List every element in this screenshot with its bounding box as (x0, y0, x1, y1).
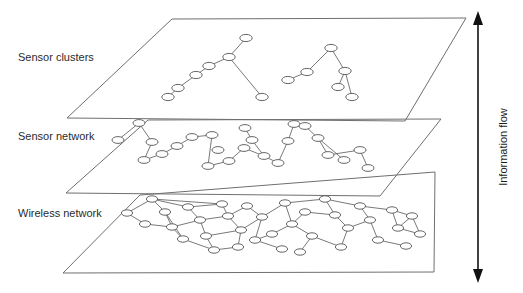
network-node (286, 221, 297, 227)
network-node (171, 143, 183, 150)
network-node (392, 225, 403, 231)
network-node (133, 120, 145, 127)
network-node (222, 213, 233, 219)
network-node (342, 225, 353, 231)
network-node (306, 233, 317, 239)
plane-wireless-network (63, 172, 435, 273)
network-node (249, 237, 260, 243)
graph-sensor-network (112, 120, 374, 172)
network-node (203, 62, 215, 69)
network-link (285, 199, 325, 203)
network-node (279, 200, 290, 206)
network-link (208, 135, 212, 166)
network-node (139, 221, 150, 227)
network-node (206, 132, 218, 139)
network-node (362, 165, 374, 172)
network-node (354, 203, 365, 209)
network-node (240, 34, 252, 41)
network-node (202, 163, 214, 170)
network-node (364, 217, 375, 223)
network-node (299, 123, 311, 130)
network-node (288, 121, 300, 128)
network-node (282, 138, 294, 145)
network-node (322, 152, 334, 159)
layer-label-sensor-network: Sensor network (18, 130, 95, 142)
network-node (258, 153, 270, 160)
plane-sensor-clusters (67, 18, 466, 121)
information-flow-arrow: Information flow (473, 11, 509, 283)
network-node (276, 246, 287, 252)
network-node (246, 137, 258, 144)
network-node (239, 125, 251, 132)
network-node (156, 151, 168, 158)
network-node (146, 139, 158, 146)
network-node (182, 204, 193, 210)
network-node (121, 210, 132, 216)
network-node (212, 147, 224, 154)
network-node (256, 214, 267, 220)
network-node (332, 83, 344, 90)
network-node (241, 203, 252, 209)
network-node (172, 84, 184, 91)
network-node (299, 209, 310, 215)
plane-group (63, 18, 466, 273)
network-node (235, 227, 246, 233)
layer-label-wireless-network: Wireless network (18, 207, 102, 219)
network-node (282, 76, 294, 83)
diagram-canvas: Sensor clusters Sensor network Wireless … (0, 0, 523, 293)
network-node (138, 157, 150, 164)
network-node (414, 231, 425, 237)
network-node (194, 217, 205, 223)
layer-label-sensor-clusters: Sensor clusters (18, 51, 94, 63)
network-node (223, 158, 235, 165)
network-node (346, 93, 358, 100)
network-node (190, 71, 202, 78)
flow-arrowhead-down (473, 269, 483, 283)
network-node (312, 135, 324, 142)
network-node (186, 134, 198, 141)
network-link (307, 48, 331, 72)
network-node (325, 44, 337, 51)
network-node (200, 233, 211, 239)
network-link (229, 57, 262, 97)
network-node (162, 93, 174, 100)
graph-sensor-clusters (162, 34, 358, 100)
network-node (256, 93, 268, 100)
network-node (266, 231, 277, 237)
layered-network-svg: Sensor clusters Sensor network Wireless … (0, 0, 523, 293)
network-node (329, 212, 340, 218)
network-node (177, 236, 188, 242)
plane-sensor-network (66, 119, 441, 196)
network-node (159, 209, 170, 215)
network-node (372, 237, 383, 243)
network-node (223, 53, 235, 60)
network-node (294, 249, 305, 255)
network-node (400, 243, 411, 249)
network-node (319, 196, 330, 202)
network-node (216, 201, 227, 207)
network-node (301, 68, 313, 75)
network-node (166, 224, 177, 230)
network-node (354, 147, 366, 154)
graph-wireless-network (121, 196, 425, 255)
network-node (238, 145, 250, 152)
network-node (386, 207, 397, 213)
network-node (406, 213, 417, 219)
network-node (112, 137, 124, 144)
network-node (339, 67, 351, 74)
network-node (208, 247, 219, 253)
information-flow-label: Information flow (497, 108, 509, 186)
network-node (338, 157, 350, 164)
network-graphs (112, 34, 426, 255)
flow-arrowhead-up (473, 11, 483, 25)
network-node (335, 244, 346, 250)
network-node (146, 196, 157, 202)
network-node (232, 244, 243, 250)
network-node (272, 160, 284, 167)
